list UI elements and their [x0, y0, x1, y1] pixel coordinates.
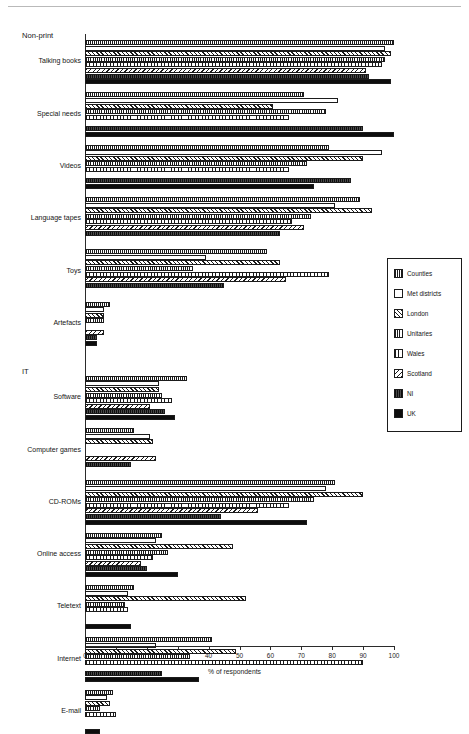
group-heading: IT	[22, 367, 29, 376]
category-label: Teletext	[3, 602, 81, 609]
bar	[85, 307, 104, 312]
bar	[85, 729, 100, 734]
bar	[85, 219, 292, 224]
bar	[85, 92, 304, 97]
bar	[85, 520, 307, 525]
bar	[85, 404, 150, 409]
bar	[85, 561, 141, 566]
x-tick-label: 60	[258, 652, 282, 659]
x-tick-label: 80	[320, 652, 344, 659]
legend-item-uk: UK	[394, 407, 416, 419]
bar	[85, 660, 363, 665]
bar	[85, 677, 199, 682]
x-tick	[270, 646, 271, 650]
bar	[85, 555, 153, 560]
bar	[85, 428, 134, 433]
legend-label: Met districts	[407, 290, 441, 297]
bar	[85, 533, 162, 538]
category-label: Internet	[3, 655, 81, 662]
legend-swatch-icon	[394, 409, 403, 418]
bar	[85, 508, 258, 513]
bar	[85, 115, 289, 120]
legend-swatch-icon	[394, 289, 403, 298]
legend-item-unitaries: Unitaries	[394, 327, 432, 339]
bar	[85, 46, 385, 51]
legend-swatch-icon	[394, 329, 403, 338]
legend-swatch-icon	[394, 309, 403, 318]
legend-label: UK	[407, 410, 416, 417]
legend-item-london: London	[394, 307, 428, 319]
bar	[85, 161, 307, 166]
bar	[85, 415, 175, 420]
bar	[85, 566, 147, 571]
legend-item-counties: Counties	[394, 267, 432, 279]
legend-swatch-icon	[394, 389, 403, 398]
bar	[85, 266, 193, 271]
bar	[85, 104, 273, 109]
bar	[85, 184, 314, 189]
bar	[85, 302, 110, 307]
bar	[85, 335, 97, 340]
bar	[85, 544, 233, 549]
bar	[85, 341, 97, 346]
x-tick	[363, 646, 364, 650]
category-label: E-mail	[3, 707, 81, 714]
bar	[85, 550, 168, 555]
bar	[85, 167, 289, 172]
category-label: Talking books	[3, 57, 81, 64]
bar	[85, 497, 314, 502]
category-label: Artefacts	[3, 319, 81, 326]
category-label: Special needs	[3, 110, 81, 117]
bar	[85, 701, 110, 706]
bar	[85, 398, 172, 403]
bar	[85, 602, 125, 607]
bar	[85, 283, 224, 288]
bar	[85, 214, 311, 219]
legend-item-wales: Wales	[394, 347, 425, 359]
bar	[85, 387, 159, 392]
bar	[85, 712, 116, 717]
x-tick	[394, 646, 395, 650]
bar	[85, 277, 286, 282]
bar	[85, 654, 190, 659]
category-label: Videos	[3, 162, 81, 169]
x-tick-label: 100	[382, 652, 406, 659]
legend-item-met-districts: Met districts	[394, 287, 441, 299]
bar	[85, 514, 221, 519]
x-tick	[332, 646, 333, 650]
category-label: Online access	[3, 550, 81, 557]
bar	[85, 260, 280, 265]
bar	[85, 434, 150, 439]
legend-swatch-icon	[394, 269, 403, 278]
x-tick	[301, 646, 302, 650]
x-tick-label: 70	[289, 652, 313, 659]
bar	[85, 231, 280, 236]
bar	[85, 208, 372, 213]
bar	[85, 585, 134, 590]
bar	[85, 126, 363, 131]
legend-swatch-icon	[394, 349, 403, 358]
bar	[85, 74, 369, 79]
bar	[85, 68, 366, 73]
bar	[85, 624, 131, 629]
bar	[85, 51, 391, 56]
bar	[85, 643, 156, 648]
bar	[85, 79, 391, 84]
bar	[85, 607, 128, 612]
bar	[85, 178, 351, 183]
bar	[85, 203, 335, 208]
bar	[85, 156, 363, 161]
bar	[85, 503, 289, 508]
bar	[85, 439, 153, 444]
legend-label: Counties	[407, 270, 432, 277]
legend-label: NI	[407, 390, 413, 397]
bar	[85, 492, 363, 497]
bar	[85, 690, 113, 695]
group-heading: Non-print	[22, 31, 53, 40]
bar	[85, 330, 104, 335]
category-label: CD-ROMs	[3, 498, 81, 505]
bar	[85, 393, 162, 398]
legend-label: London	[407, 310, 428, 317]
legend: CountiesMet districtsLondonUnitariesWale…	[387, 258, 462, 432]
